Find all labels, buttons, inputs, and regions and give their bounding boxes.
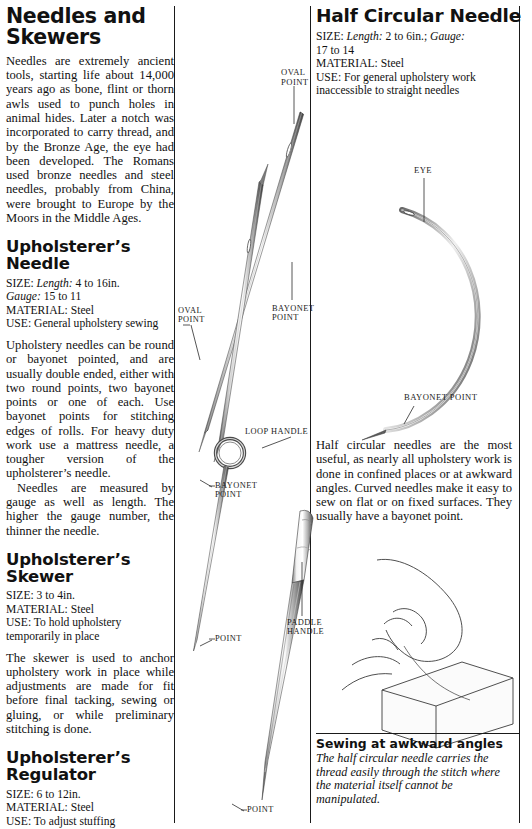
spec-material-label: MATERIAL: — [316, 57, 378, 70]
right-column-body: Half circular needles are the most usefu… — [316, 438, 512, 524]
right-column: Half Circular Needle SIZE: Length: 2 to … — [316, 6, 526, 823]
caption-divider — [316, 733, 519, 734]
spec-use-label: USE: — [316, 71, 341, 84]
caption-body: The half circular needle carries the thr… — [316, 752, 514, 808]
paragraph-half-circular-1: Half circular needles are the most usefu… — [316, 438, 512, 524]
spec-size-line: SIZE: Length: 2 to 6in.; Gauge: — [316, 30, 526, 44]
spec-gauge-line: 17 to 14 — [316, 44, 526, 58]
spec-size-value: 2 to 6in.; — [386, 30, 428, 43]
spec-use-line: USE: For general upholstery work inacces… — [316, 71, 526, 98]
spec-length-label: Length: — [347, 30, 383, 43]
caption-block: Sewing at awkward angles The half circul… — [316, 737, 514, 807]
spec-gauge-label: Gauge: — [430, 30, 465, 43]
spec-size-label: SIZE: — [316, 30, 344, 43]
spec-gauge-value: 17 to 14 — [316, 44, 354, 57]
page-root: Needles and Skewers Needles are extremel… — [0, 0, 532, 829]
heading-half-circular-needle: Half Circular Needle — [316, 6, 526, 25]
spec-half-circular-needle: SIZE: Length: 2 to 6in.; Gauge: 17 to 14… — [316, 30, 526, 98]
spec-material-line: MATERIAL: Steel — [316, 57, 526, 71]
caption-title: Sewing at awkward angles — [316, 737, 514, 751]
spec-material-value: Steel — [381, 57, 404, 70]
